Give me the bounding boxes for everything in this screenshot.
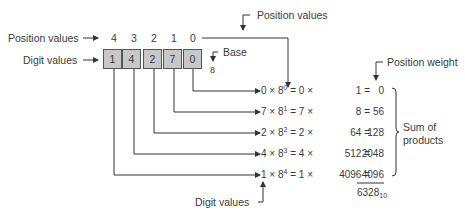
position-value: 2 <box>144 32 164 44</box>
position-values-top-label: Position values <box>257 9 328 21</box>
digit-box: 4 <box>122 49 141 69</box>
position-value: 0 <box>183 32 203 44</box>
digit-box: 1 <box>103 49 122 69</box>
position-value: 4 <box>104 32 124 44</box>
position-value: 1 <box>164 32 184 44</box>
position-values-label: Position values <box>8 32 79 44</box>
position-weight-label: Position weight <box>387 56 458 68</box>
sum-of-products-label: Sum of products <box>403 121 443 147</box>
base-value: 8 <box>210 64 215 76</box>
digit-values-label: Digit values <box>23 54 77 66</box>
digit-values-bottom-label: Digit values <box>195 196 249 208</box>
digit-box: 0 <box>183 49 202 69</box>
result-value: 632810 <box>357 187 387 199</box>
base-label: Base <box>223 46 247 58</box>
digit-box: 7 <box>163 49 182 69</box>
digit-box: 2 <box>143 49 162 69</box>
position-value: 3 <box>124 32 144 44</box>
